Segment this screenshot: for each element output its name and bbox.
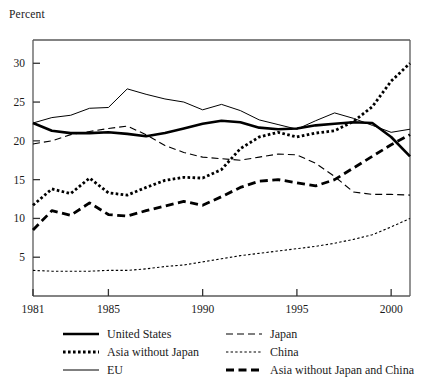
legend-column-left: United StatesAsia without JapanEU — [62, 325, 199, 379]
x-tick-label: 1990 — [191, 303, 214, 315]
legend-item[interactable]: China — [225, 343, 414, 361]
y-tick-label: 5 — [19, 251, 25, 263]
legend-item-label: Japan — [270, 328, 297, 340]
x-tick-label: 2000 — [380, 303, 403, 315]
legend-line-swatch-icon — [62, 346, 100, 358]
legend-item-label: EU — [107, 364, 123, 376]
legend-item[interactable]: Asia without Japan and China — [225, 361, 414, 379]
legend-item[interactable]: Japan — [225, 325, 414, 343]
series-line — [33, 126, 410, 195]
chart-svg: 51015202530 19811985199019952000 — [0, 0, 423, 320]
legend-line-swatch-icon — [225, 364, 263, 376]
legend-item[interactable]: Asia without Japan — [62, 343, 199, 361]
series-line — [33, 135, 410, 230]
legend-item-label: China — [270, 346, 299, 358]
y-tick-label: 15 — [14, 174, 26, 186]
x-tick-label: 1981 — [22, 303, 45, 315]
y-tick-label: 30 — [14, 57, 26, 69]
legend-item-label: Asia without Japan and China — [270, 364, 414, 376]
y-tick-label: 20 — [14, 135, 26, 147]
legend-line-swatch-icon — [62, 328, 100, 340]
legend-line-swatch-icon — [225, 346, 263, 358]
plot-area: 51015202530 19811985199019952000 — [0, 0, 423, 320]
series-line — [33, 89, 410, 132]
legend-line-swatch-icon — [62, 364, 100, 376]
y-tick-label: 25 — [14, 96, 26, 108]
legend-item[interactable]: EU — [62, 361, 199, 379]
series-lines — [33, 63, 410, 271]
y-tick-label-group: 51015202530 — [14, 57, 26, 263]
series-line — [33, 121, 410, 157]
legend-item-label: United States — [107, 328, 171, 340]
y-tick-label: 10 — [14, 212, 26, 224]
legend-column-right: JapanChinaAsia without Japan and China — [225, 325, 414, 379]
legend-item[interactable]: United States — [62, 325, 199, 343]
legend-line-swatch-icon — [225, 328, 263, 340]
x-tick-label: 1985 — [97, 303, 120, 315]
legend-item-label: Asia without Japan — [107, 346, 199, 358]
line-chart-figure: Percent 51015202530 19811985199019952000… — [0, 0, 423, 383]
x-tick-label: 1995 — [285, 303, 308, 315]
series-line — [33, 218, 410, 271]
x-tick-label-group: 19811985199019952000 — [22, 303, 403, 315]
chart-legend: United StatesAsia without JapanEU JapanC… — [0, 325, 423, 383]
